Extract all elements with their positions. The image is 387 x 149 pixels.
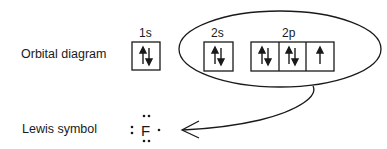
spin-pair-icon xyxy=(286,47,298,65)
element-symbol: F xyxy=(141,122,150,139)
lewis-structure: F xyxy=(131,115,161,143)
spin-pair-icon xyxy=(212,47,224,65)
orbital-2p: 2p xyxy=(251,26,334,71)
orbital-box xyxy=(132,42,160,70)
orbital-2s-label: 2s xyxy=(211,26,224,40)
lewis-symbol-label: Lewis symbol xyxy=(22,122,97,136)
orbital-2s: 2s xyxy=(204,26,233,71)
spin-up-icon xyxy=(317,47,323,64)
orbital-1s-label: 1s xyxy=(139,26,152,40)
orbital-diagram-figure: Orbital diagram Lewis symbol 1s 2s 2p xyxy=(0,0,387,149)
orbital-1s: 1s xyxy=(132,26,160,70)
valence-ellipse xyxy=(179,11,381,87)
orbital-2p-label: 2p xyxy=(282,26,296,40)
spin-pair-icon xyxy=(259,47,271,65)
orbital-box-group xyxy=(251,42,334,71)
spin-pair-icon xyxy=(140,47,152,65)
curved-arrow-icon xyxy=(183,86,314,130)
orbital-box xyxy=(204,42,233,71)
orbital-diagram-label: Orbital diagram xyxy=(21,47,106,61)
